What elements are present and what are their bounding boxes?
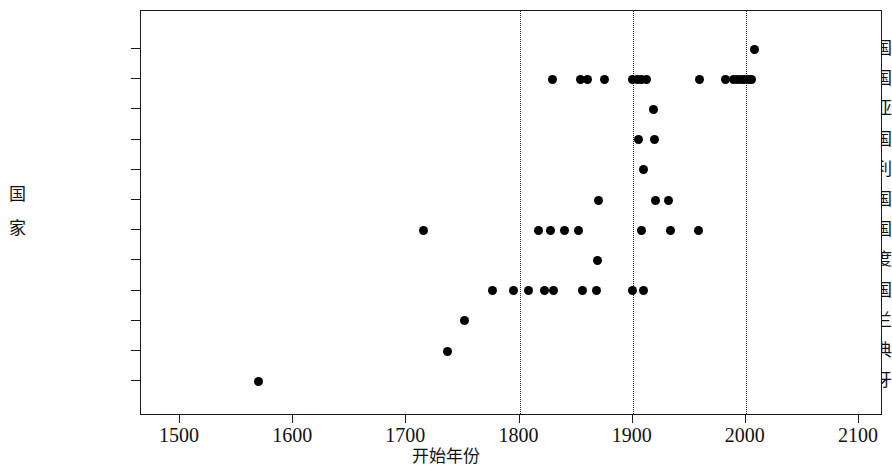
plot-area (140, 10, 882, 415)
data-point (750, 45, 759, 54)
gridline-vertical (520, 11, 521, 414)
scatter-plot-figure: 国 家 世界多国美国澳大利亚德国意大利俄国英国印度法国荷兰瑞典西班牙 15001… (0, 0, 892, 470)
data-point (419, 226, 428, 235)
y-axis-tick-mark (131, 139, 140, 140)
y-axis-tick-mark (131, 229, 140, 230)
x-axis-tick-mark (405, 415, 406, 423)
y-axis-tick-mark (131, 48, 140, 49)
data-point (443, 347, 452, 356)
data-point (637, 226, 646, 235)
data-point (634, 135, 643, 144)
y-axis-tick-mark (131, 108, 140, 109)
data-point (540, 286, 549, 295)
data-point (488, 286, 497, 295)
data-point (560, 226, 569, 235)
y-axis-tick-mark (131, 169, 140, 170)
data-point (642, 75, 651, 84)
data-point (574, 226, 583, 235)
x-axis-tick-label: 2100 (838, 424, 878, 446)
data-point (593, 256, 602, 265)
data-point (649, 105, 658, 114)
data-point (664, 196, 673, 205)
y-axis-tick-mark (131, 199, 140, 200)
data-point (583, 75, 592, 84)
data-point (524, 286, 533, 295)
gridline-vertical (746, 11, 747, 414)
data-point (600, 75, 609, 84)
x-axis-tick-mark (519, 415, 520, 423)
data-point (460, 316, 469, 325)
data-point (546, 226, 555, 235)
y-axis-title-char-1: 国 (4, 178, 30, 212)
data-point (254, 377, 263, 386)
data-point (549, 286, 558, 295)
y-axis-tick-mark (131, 380, 140, 381)
data-point (594, 196, 603, 205)
y-axis-tick-mark (131, 320, 140, 321)
y-axis-title-char-2: 家 (4, 212, 30, 246)
x-axis-tick-mark (632, 415, 633, 423)
data-point (651, 196, 660, 205)
x-axis-tick-label: 2000 (725, 424, 765, 446)
x-axis-tick-label: 1700 (385, 424, 425, 446)
x-axis-tick-label: 1600 (272, 424, 312, 446)
x-axis-tick-mark (858, 415, 859, 423)
x-axis-tick-label: 1900 (612, 424, 652, 446)
data-point (747, 75, 756, 84)
x-axis-title: 开始年份 (0, 448, 892, 466)
data-point (694, 226, 703, 235)
x-axis-tick-mark (179, 415, 180, 423)
data-point (548, 75, 557, 84)
y-axis-tick-mark (131, 78, 140, 79)
x-axis-tick-mark (745, 415, 746, 423)
gridline-vertical (633, 11, 634, 414)
y-axis-title: 国 家 (4, 178, 30, 246)
y-axis-tick-mark (131, 290, 140, 291)
data-point (639, 165, 648, 174)
x-axis-tick-label: 1800 (499, 424, 539, 446)
data-point (695, 75, 704, 84)
data-point (628, 286, 637, 295)
x-axis-tick-mark (292, 415, 293, 423)
data-point (509, 286, 518, 295)
y-axis-tick-mark (131, 259, 140, 260)
y-axis-tick-mark (131, 350, 140, 351)
data-point (639, 286, 648, 295)
data-point (592, 286, 601, 295)
x-axis-tick-label: 1500 (159, 424, 199, 446)
data-point (666, 226, 675, 235)
data-point (650, 135, 659, 144)
data-point (578, 286, 587, 295)
data-point (534, 226, 543, 235)
